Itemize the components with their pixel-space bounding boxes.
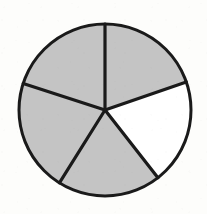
fraction-circle-figure <box>0 0 207 214</box>
pie-diagram-svg <box>0 0 207 214</box>
